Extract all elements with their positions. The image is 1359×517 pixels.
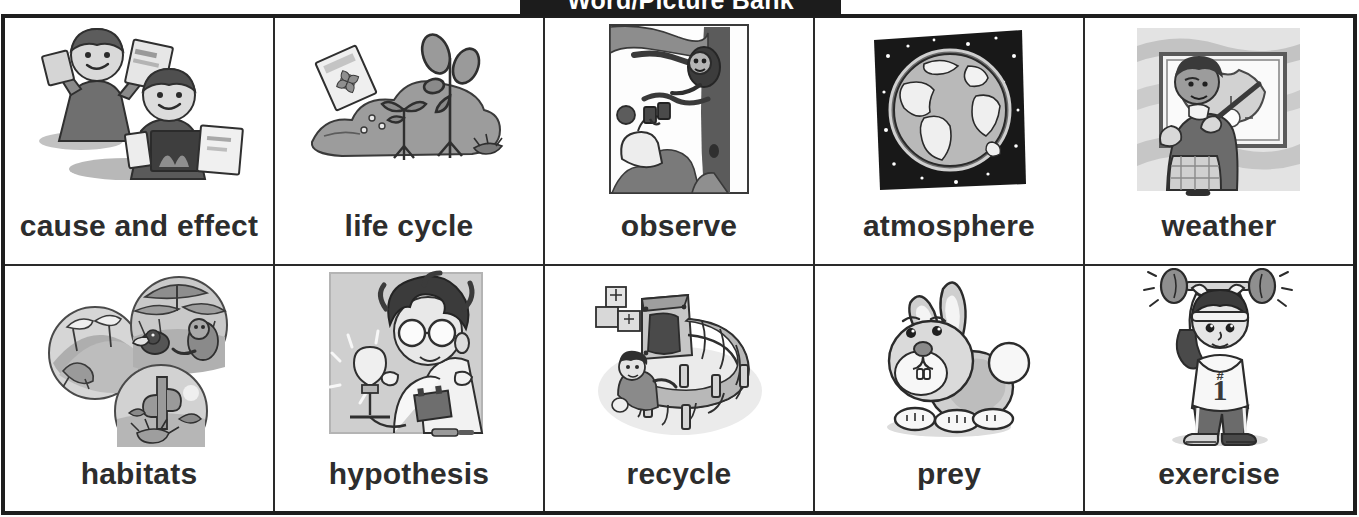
- bank-cell-weather[interactable]: weather: [1084, 16, 1355, 265]
- bank-cell-cause-and-effect[interactable]: cause and effect: [3, 16, 274, 265]
- bank-cell-atmosphere[interactable]: atmosphere: [814, 16, 1084, 265]
- worksheet-title-banner: Word/Picture Bank: [520, 0, 841, 16]
- two-children-holding-cards-icon: [5, 18, 273, 200]
- bank-cell-recycle[interactable]: recycle: [544, 265, 814, 514]
- bank-word-label: observe: [545, 200, 813, 252]
- page-title: Word/Picture Bank: [567, 0, 794, 15]
- three-habitat-circles-icon: [5, 266, 273, 448]
- bank-cell-observe[interactable]: observe: [544, 16, 814, 265]
- bank-cell-hypothesis[interactable]: hypothesis: [274, 265, 544, 514]
- bank-word-label: weather: [1085, 200, 1353, 252]
- person-lifting-dumbbells-icon: # 1: [1085, 266, 1353, 448]
- bank-cell-habitats[interactable]: habitats: [3, 265, 274, 514]
- bank-word-label: cause and effect: [5, 200, 273, 252]
- earth-globe-starry-sky-icon: [815, 18, 1083, 200]
- bank-word-label: life cycle: [275, 200, 543, 252]
- person-binoculars-monkey-tree-icon: [545, 18, 813, 200]
- bank-word-label: atmosphere: [815, 200, 1083, 252]
- scientist-lightbulb-battery-icon: [275, 266, 543, 448]
- bank-word-label: hypothesis: [275, 448, 543, 500]
- bank-cell-exercise[interactable]: # 1 exercise: [1084, 265, 1355, 514]
- bank-cell-life-cycle[interactable]: life cycle: [274, 16, 544, 265]
- bank-word-label: habitats: [5, 448, 273, 500]
- bank-word-label: exercise: [1085, 448, 1353, 500]
- weatherman-pointing-map-icon: [1085, 18, 1353, 200]
- word-picture-bank-worksheet: Word/Picture Bank: [0, 0, 1359, 517]
- bank-word-label: prey: [815, 448, 1083, 500]
- recycling-machine-conveyor-icon: [545, 266, 813, 448]
- bank-word-label: recycle: [545, 448, 813, 500]
- cartoon-rabbit-icon: [815, 266, 1083, 448]
- svg-text:1: 1: [1213, 373, 1228, 406]
- word-picture-bank-table: cause and effect: [1, 14, 1357, 515]
- seed-packet-sprouting-plants-icon: [275, 18, 543, 200]
- table-row: cause and effect: [3, 16, 1355, 265]
- bank-cell-prey[interactable]: prey: [814, 265, 1084, 514]
- table-row: habitats: [3, 265, 1355, 514]
